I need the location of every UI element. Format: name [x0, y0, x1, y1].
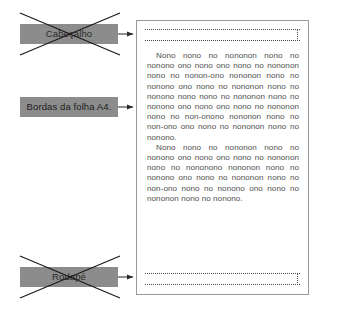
annotation-label-text: Cabeçalho — [46, 28, 92, 39]
annotation-label-text: Bordas da folha A4. — [27, 101, 112, 112]
annotation-label-cabecalho[interactable]: Cabeçalho — [20, 24, 118, 44]
annotation-label-text: Rodapé — [52, 271, 86, 282]
page-structure-diagram: Nono nono no nononon nono no nonono ono … — [0, 0, 338, 312]
annotation-label-bordas[interactable]: Bordas da folha A4. — [20, 97, 118, 117]
connector-layer — [0, 0, 338, 312]
annotation-label-rodape[interactable]: Rodapé — [20, 267, 118, 287]
